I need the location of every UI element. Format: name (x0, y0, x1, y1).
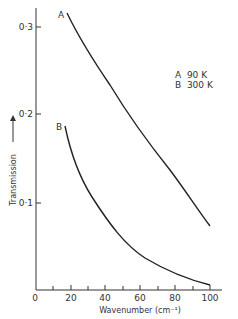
y-tick-label: 0·3 (19, 22, 33, 32)
x-axis-label: Wavenumber (cm⁻¹) (99, 306, 181, 315)
y-axis-label: Transmission (9, 154, 18, 207)
x-ticks (53, 285, 210, 290)
x-tick-label: 80 (169, 293, 181, 303)
x-tick-label: 100 (201, 293, 218, 303)
y-axis-label-group: Transmission (9, 115, 18, 207)
y-tick-label: 0·2 (19, 109, 33, 119)
x-tick-label: 20 (65, 293, 77, 303)
x-tick-label: 60 (134, 293, 146, 303)
x-tick-label: 40 (99, 293, 111, 303)
legend-item-a: A 90 K (175, 70, 208, 80)
legend: A 90 K B 300 K (175, 70, 214, 90)
curve-b-label: B (56, 122, 62, 132)
arrow-head-icon (10, 115, 16, 121)
curve-b (65, 126, 210, 285)
y-ticks (36, 27, 41, 203)
x-tick-label: 0 (32, 293, 38, 303)
y-tick-label: 0·1 (19, 198, 33, 208)
legend-item-b: B 300 K (175, 80, 214, 90)
chart: 0·3 0·2 0·1 0 20 40 60 80 100 Wavenumber… (0, 0, 238, 319)
curve-a-label: A (58, 10, 65, 20)
curve-a (67, 13, 210, 226)
